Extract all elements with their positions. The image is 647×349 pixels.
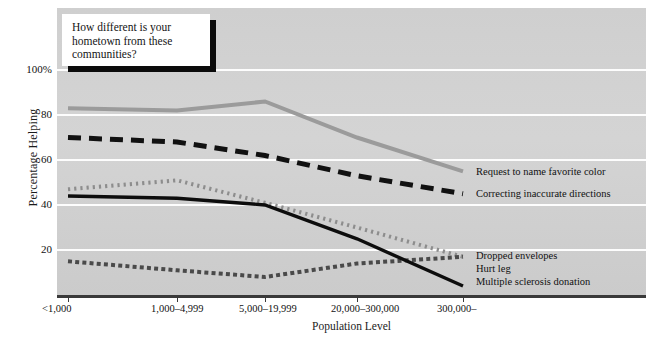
series-line-request-to-name-favorite-color (68, 102, 463, 172)
chart-figure: 100%80604020 <1,0001,000–4,9995,000–19,9… (0, 0, 647, 349)
y-axis-title-wrap: Percentage Helping (0, 0, 14, 300)
series-label-directions: Correcting inaccurate directions (476, 188, 611, 199)
x-axis-title: Population Level (57, 320, 646, 332)
callout-box: How different is your hometown from thes… (62, 14, 210, 66)
series-line-dropped-envelopes (68, 180, 463, 256)
series-label-envelopes: Dropped envelopes (476, 250, 557, 261)
y-axis-title: Percentage Helping (26, 78, 41, 238)
series-line-multiple-sclerosis-donation (68, 196, 463, 286)
series-label-hurt-leg: Hurt leg (476, 263, 511, 274)
callout-text: How different is your hometown from thes… (72, 21, 204, 62)
series-label-favorite-color: Request to name favorite color (476, 166, 605, 177)
series-label-ms-donation: Multiple sclerosis donation (476, 276, 590, 287)
series-line-correcting-inaccurate-directions (68, 138, 463, 194)
